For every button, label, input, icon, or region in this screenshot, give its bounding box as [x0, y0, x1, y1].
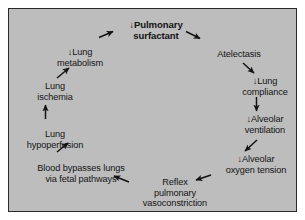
node-blood-bypasses-line2: via fetal pathways [17, 174, 145, 185]
node-lung-hypoperfusion-line1: Lung [12, 129, 98, 140]
node-lung-ischemia: Lung ischemia [17, 81, 93, 102]
node-reflex-line3: vasoconstriction [131, 198, 219, 209]
node-reflex-line2: pulmonary [131, 188, 219, 199]
node-alveolar-oxygen-tension-line1: ↓Alveolar [206, 154, 305, 165]
node-alveolar-oxygen-tension-line2: oxygen tension [206, 165, 305, 176]
node-lung-ischemia-line1: Lung [17, 81, 93, 92]
node-lung-ischemia-line2: ischemia [17, 92, 93, 103]
node-lung-compliance: ↓Lung compliance [227, 76, 303, 97]
node-blood-bypasses-lungs: Blood bypasses lungs via fetal pathways [17, 163, 145, 184]
node-pulmonary-surfactant-line1: ↓Pulmonary [116, 19, 196, 30]
diagram-page: ↓Pulmonary surfactant Atelectasis ↓Lung … [0, 0, 305, 220]
node-atelectasis-line1: Atelectasis [203, 49, 275, 60]
node-lung-metabolism-line2: metabolism [40, 58, 120, 69]
node-alveolar-ventilation: ↓Alveolar ventilation [227, 114, 303, 135]
node-pulmonary-surfactant: ↓Pulmonary surfactant [116, 19, 196, 41]
node-alveolar-ventilation-line1: ↓Alveolar [227, 114, 303, 125]
arrow-ventilation-to-oxygen [245, 140, 257, 151]
node-blood-bypasses-line1: Blood bypasses lungs [17, 163, 145, 174]
arrow-ischemia-to-metabolism [57, 68, 69, 78]
node-lung-hypoperfusion-line2: hypoperfusion [12, 140, 98, 151]
node-lung-hypoperfusion: Lung hypoperfusion [12, 129, 98, 150]
node-alveolar-oxygen-tension: ↓Alveolar oxygen tension [206, 154, 305, 175]
node-lung-metabolism-line1: ↓Lung [40, 47, 120, 58]
diagram-frame: ↓Pulmonary surfactant Atelectasis ↓Lung … [8, 8, 297, 212]
arrow-atelectasis-to-compliance [243, 63, 254, 73]
node-pulmonary-surfactant-line2: surfactant [116, 30, 196, 41]
node-alveolar-ventilation-line2: ventilation [227, 125, 303, 136]
node-lung-compliance-line2: compliance [227, 87, 303, 98]
node-lung-metabolism: ↓Lung metabolism [40, 47, 120, 68]
node-lung-compliance-line1: ↓Lung [227, 76, 303, 87]
arrow-metabolism-to-surfactant [99, 31, 113, 37]
node-atelectasis: Atelectasis [203, 49, 275, 60]
